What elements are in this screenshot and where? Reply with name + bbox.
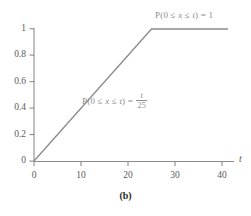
x-tick-label-20: 20 (118, 170, 138, 180)
annotation-plateau: P(0 ≤ x ≤ t) = 1 (155, 10, 213, 20)
x-axis-label: t (239, 153, 242, 164)
annotation-ramp-fraction: t 25 (136, 91, 146, 110)
annotation-ramp-mid: ≤ (109, 96, 119, 106)
y-tick-label-0.4: 0.4 (2, 102, 26, 112)
annotation-ramp-tail: ) = (122, 96, 135, 106)
x-axis-ticks (34, 162, 222, 167)
y-tick-label-0: 0 (6, 155, 26, 165)
x-tick-label-40: 40 (212, 170, 232, 180)
x-tick-label-0: 0 (24, 170, 44, 180)
y-axis-ticks (30, 29, 35, 161)
annotation-plateau-lead: P(0 ≤ (155, 10, 178, 20)
y-tick-label-0.6: 0.6 (2, 76, 26, 86)
annotation-ramp: P(0 ≤ x ≤ t) = t 25 (82, 91, 147, 110)
x-tick-label-30: 30 (165, 170, 185, 180)
x-tick-label-10: 10 (71, 170, 91, 180)
y-tick-label-1: 1 (6, 23, 26, 33)
fraction-numerator: t (136, 91, 146, 100)
annotation-plateau-mid: ≤ (182, 10, 192, 20)
annotation-plateau-tail: ) = 1 (195, 10, 213, 20)
annotation-ramp-lead: P(0 ≤ (82, 96, 105, 106)
y-tick-label-0.2: 0.2 (2, 129, 26, 139)
fraction-denominator: 25 (136, 102, 146, 110)
figure-caption: (b) (0, 190, 251, 201)
y-tick-label-0.8: 0.8 (2, 49, 26, 59)
figure-panel-b: 1 0.8 0.6 0.4 0.2 0 0 10 20 30 40 t P(0 … (0, 0, 251, 216)
